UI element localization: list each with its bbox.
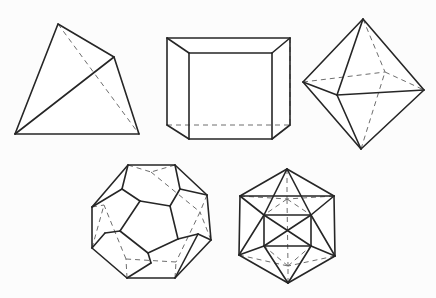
solid-dodecahedron [92, 165, 211, 278]
icosahedron-visible-edge [334, 196, 335, 256]
solid-tetrahedron [15, 24, 139, 134]
platonic-solids-figure [0, 0, 436, 298]
octahedron-face-fill [303, 19, 424, 149]
solid-octahedron [303, 19, 424, 149]
solids-svg-canvas [0, 0, 436, 298]
solid-icosahedron [239, 169, 335, 283]
solid-cube [167, 38, 290, 139]
icosahedron-visible-edge [239, 196, 240, 255]
